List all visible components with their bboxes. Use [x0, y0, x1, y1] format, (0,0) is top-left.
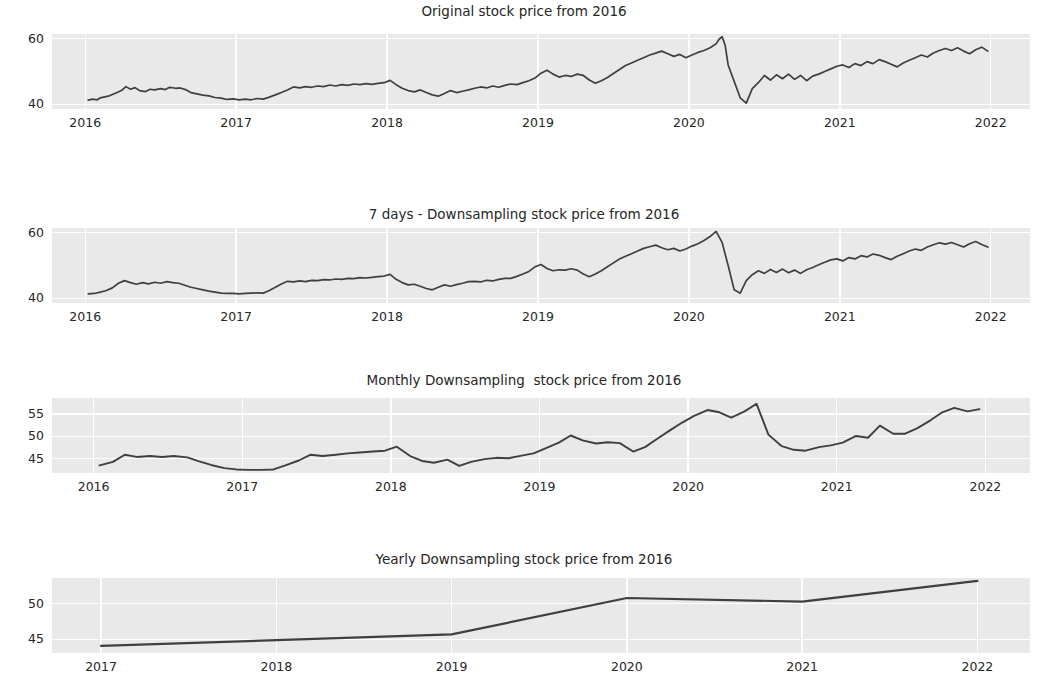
series-path: [100, 404, 980, 470]
y-tick-label: 50: [0, 428, 44, 443]
x-tick-label: 2022: [961, 115, 1021, 130]
y-tick-label: 45: [0, 451, 44, 466]
panel-title-original: Original stock price from 2016: [0, 3, 1048, 19]
x-tick-label: 2022: [947, 659, 1007, 674]
x-tick-label: 2021: [772, 659, 832, 674]
series-line-weekly: [52, 228, 1030, 303]
x-tick-label: 2021: [807, 479, 867, 494]
plot-area-weekly: [52, 228, 1030, 303]
x-tick-label: 2017: [206, 309, 266, 324]
series-line-monthly: [52, 398, 1030, 473]
panel-title-monthly: Monthly Downsampling stock price from 20…: [0, 372, 1048, 388]
panel-title-yearly: Yearly Downsampling stock price from 201…: [0, 551, 1048, 567]
x-tick-label: 2022: [955, 479, 1015, 494]
x-tick-label: 2020: [659, 309, 719, 324]
panel-title-weekly: 7 days - Downsampling stock price from 2…: [0, 206, 1048, 222]
x-tick-label: 2021: [810, 115, 870, 130]
plot-area-monthly: [52, 398, 1030, 473]
y-tick-label: 50: [0, 596, 44, 611]
x-tick-label: 2016: [64, 479, 124, 494]
x-tick-label: 2018: [246, 659, 306, 674]
plot-area-yearly: [52, 578, 1030, 653]
y-tick-label: 60: [0, 225, 44, 240]
series-path: [101, 581, 977, 646]
y-tick-label: 45: [0, 631, 44, 646]
y-tick-label: 40: [0, 96, 44, 111]
y-tick-label: 60: [0, 31, 44, 46]
plot-area-original: [52, 34, 1030, 109]
panel-monthly: Monthly Downsampling stock price from 20…: [0, 350, 1048, 530]
x-tick-label: 2018: [361, 479, 421, 494]
series-path: [88, 231, 988, 294]
x-tick-label: 2019: [508, 309, 568, 324]
x-tick-label: 2018: [357, 309, 417, 324]
y-tick-label: 40: [0, 290, 44, 305]
x-tick-label: 2019: [510, 479, 570, 494]
series-line-original: [52, 34, 1030, 109]
x-tick-label: 2019: [422, 659, 482, 674]
panel-weekly: 7 days - Downsampling stock price from 2…: [0, 170, 1048, 350]
x-tick-label: 2020: [597, 659, 657, 674]
x-tick-label: 2017: [71, 659, 131, 674]
x-tick-label: 2019: [508, 115, 568, 130]
panel-yearly: Yearly Downsampling stock price from 201…: [0, 530, 1048, 682]
x-tick-label: 2021: [810, 309, 870, 324]
x-tick-label: 2017: [212, 479, 272, 494]
panel-original: Original stock price from 2016 4060 2016…: [0, 0, 1048, 170]
x-tick-label: 2020: [658, 479, 718, 494]
x-tick-label: 2016: [55, 115, 115, 130]
y-tick-label: 55: [0, 406, 44, 421]
x-tick-label: 2017: [206, 115, 266, 130]
series-path: [88, 37, 988, 103]
x-tick-label: 2022: [961, 309, 1021, 324]
series-line-yearly: [52, 578, 1030, 653]
x-tick-label: 2016: [55, 309, 115, 324]
x-tick-label: 2018: [357, 115, 417, 130]
x-tick-label: 2020: [659, 115, 719, 130]
